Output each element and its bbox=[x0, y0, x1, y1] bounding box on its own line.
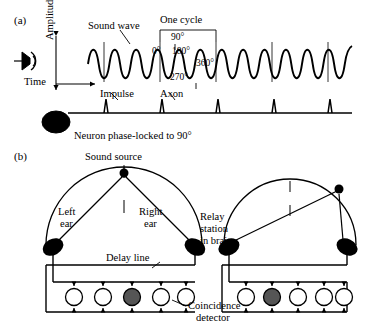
detector-circle bbox=[153, 289, 170, 306]
panel-a-tag: (a) bbox=[14, 14, 26, 26]
ear-icon bbox=[14, 52, 36, 70]
sound-wave-label: Sound wave bbox=[88, 20, 140, 31]
detector-circle bbox=[336, 289, 353, 306]
axon-label: Axon bbox=[160, 88, 183, 99]
phase-90-label: 90° bbox=[171, 32, 184, 42]
phase-270-label: 270° bbox=[170, 72, 188, 82]
detector-circle-active bbox=[124, 289, 141, 306]
detector-circle bbox=[316, 289, 333, 306]
detector-circle bbox=[290, 289, 307, 306]
amplitude-label: Amplitude bbox=[44, 0, 55, 40]
right-coincidence-detectors bbox=[238, 289, 353, 306]
right-path-to-right-ear bbox=[339, 194, 343, 240]
neuron-soma-icon bbox=[42, 111, 70, 133]
relay-label-line3: in brain bbox=[200, 235, 232, 246]
left-sound-source-dot bbox=[120, 169, 129, 178]
spike bbox=[328, 99, 332, 113]
time-label: Time bbox=[24, 76, 46, 87]
right-path-to-left-ear bbox=[232, 191, 337, 242]
left-coincidence-detectors bbox=[66, 289, 195, 306]
spike bbox=[160, 99, 164, 113]
spike bbox=[104, 99, 108, 113]
panel-b-tag: (b) bbox=[14, 150, 27, 162]
left-ear-label-line2: ear bbox=[60, 218, 73, 229]
right-ear-label-line2: ear bbox=[144, 218, 157, 229]
detector-circle bbox=[66, 289, 83, 306]
phase-0-label: 0° bbox=[152, 46, 161, 56]
phase-360-label: 360° bbox=[196, 58, 214, 68]
one-cycle-label: One cycle bbox=[160, 14, 202, 25]
left-ear-label-line1: Left bbox=[58, 206, 76, 217]
coincidence-label-line1: Coincidence bbox=[188, 300, 240, 311]
detector-circle bbox=[95, 289, 112, 306]
sound-wave-leader bbox=[120, 30, 130, 44]
impulse-label: Impulse bbox=[100, 88, 134, 99]
coincidence-label-line2: detector bbox=[196, 312, 230, 323]
sound-wave-curve bbox=[88, 46, 352, 78]
spike bbox=[216, 99, 220, 113]
relay-label-line1: Relay bbox=[200, 211, 225, 222]
right-ear-label-line1: Right bbox=[139, 206, 162, 217]
delay-line-label: Delay line bbox=[106, 252, 149, 263]
neuron-label: Neuron phase-locked to 90° bbox=[74, 130, 192, 141]
detector-circle-active bbox=[264, 289, 281, 306]
phase-180-label: 180° bbox=[172, 46, 190, 56]
figure-container: (a) Sound wave One cycle Amplitude Time … bbox=[0, 0, 368, 328]
sound-source-label: Sound source bbox=[85, 151, 142, 162]
relay-label-line2: station bbox=[200, 223, 228, 234]
spike bbox=[272, 99, 276, 113]
